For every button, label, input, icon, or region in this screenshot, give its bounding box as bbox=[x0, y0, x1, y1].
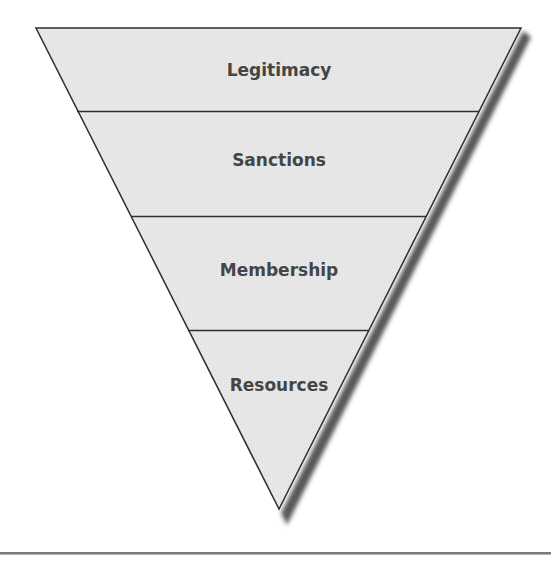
layer-membership: Membership bbox=[220, 260, 338, 280]
layer-label-membership: Membership bbox=[220, 260, 338, 280]
bottom-rule bbox=[0, 552, 551, 554]
layer-label-legitimacy: Legitimacy bbox=[227, 60, 332, 80]
bottom-rule-highlight bbox=[0, 554, 551, 555]
inverted-pyramid-diagram: Legitimacy Sanctions Membership Resource… bbox=[0, 0, 551, 561]
layer-legitimacy: Legitimacy bbox=[227, 60, 332, 80]
layer-label-resources: Resources bbox=[230, 375, 329, 395]
layer-label-sanctions: Sanctions bbox=[232, 150, 326, 170]
layer-sanctions: Sanctions bbox=[232, 150, 326, 170]
layer-resources: Resources bbox=[230, 375, 329, 395]
